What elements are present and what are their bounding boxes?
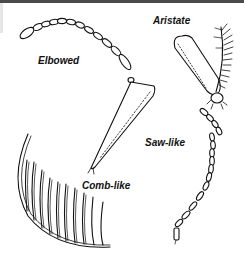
diagram-frame: Elbowed Aristate Saw-like Comb-like — [0, 0, 244, 259]
label-elbowed: Elbowed — [38, 55, 79, 66]
elbowed-antenna-icon — [18, 18, 155, 174]
aristate-antenna-icon — [174, 24, 233, 109]
antennae-illustration — [0, 0, 244, 259]
saw-like-antenna-icon — [174, 107, 223, 244]
label-aristate: Aristate — [153, 15, 190, 26]
label-saw-like: Saw-like — [145, 137, 185, 148]
label-comb-like: Comb-like — [82, 180, 130, 191]
